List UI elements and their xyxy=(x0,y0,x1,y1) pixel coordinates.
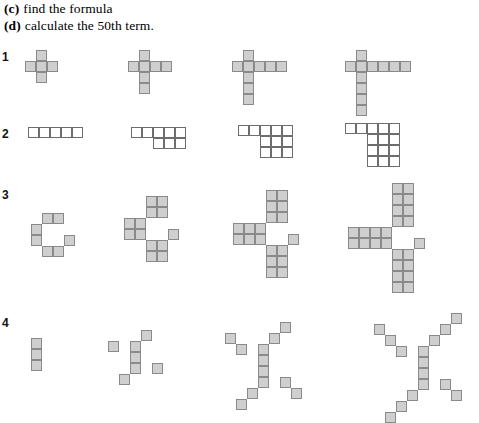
pattern-square xyxy=(389,134,400,145)
pattern-square xyxy=(392,249,403,260)
pattern-square xyxy=(141,330,152,341)
pattern-square xyxy=(42,213,53,224)
pattern-square xyxy=(396,401,407,412)
pattern-square xyxy=(124,218,135,229)
pattern-square xyxy=(243,61,254,72)
pattern-square xyxy=(359,227,370,238)
pattern-square xyxy=(385,412,396,423)
pattern-square xyxy=(389,156,400,167)
pattern-square xyxy=(403,205,414,216)
row-number-label: 2 xyxy=(2,127,9,141)
pattern-square xyxy=(135,229,146,240)
pattern-square xyxy=(440,379,451,390)
pattern-square xyxy=(36,61,47,72)
pattern-square xyxy=(233,234,244,245)
pattern-square xyxy=(243,83,254,94)
pattern-square xyxy=(28,127,39,138)
pattern-square xyxy=(378,61,389,72)
pattern-square xyxy=(36,72,47,83)
pattern-square xyxy=(440,324,451,335)
pattern-square xyxy=(161,61,172,72)
pattern-square xyxy=(247,388,258,399)
pattern-square xyxy=(153,127,164,138)
pattern-square xyxy=(282,125,293,136)
pattern-square xyxy=(414,238,425,249)
pattern-square xyxy=(392,260,403,271)
pattern-square xyxy=(451,313,462,324)
pattern-square xyxy=(429,335,440,346)
pattern-square xyxy=(260,125,271,136)
row-number-label: 1 xyxy=(2,50,9,64)
pattern-square xyxy=(356,105,367,116)
pattern-square xyxy=(255,223,266,234)
pattern-square xyxy=(403,216,414,227)
pattern-square xyxy=(400,61,411,72)
pattern-square xyxy=(276,61,287,72)
pattern-square xyxy=(271,147,282,158)
pattern-square xyxy=(233,223,244,234)
pattern-square xyxy=(255,234,266,245)
pattern-square xyxy=(131,127,142,138)
pattern-square xyxy=(153,138,164,149)
pattern-square xyxy=(258,344,269,355)
pattern-square xyxy=(277,245,288,256)
pattern-square xyxy=(374,324,385,335)
pattern-square xyxy=(254,61,265,72)
pattern-square xyxy=(348,238,359,249)
pattern-square xyxy=(288,234,299,245)
pattern-square xyxy=(265,61,276,72)
pattern-square xyxy=(258,366,269,377)
pattern-square xyxy=(225,333,236,344)
pattern-square xyxy=(146,251,157,262)
pattern-square xyxy=(277,256,288,267)
pattern-square xyxy=(403,271,414,282)
pattern-square xyxy=(345,61,356,72)
pattern-square xyxy=(271,136,282,147)
pattern-square xyxy=(232,61,243,72)
pattern-square xyxy=(392,282,403,293)
pattern-square xyxy=(269,333,280,344)
pattern-square xyxy=(356,83,367,94)
pattern-square xyxy=(146,240,157,251)
pattern-square xyxy=(168,229,179,240)
pattern-square xyxy=(392,194,403,205)
pattern-square xyxy=(175,138,186,149)
pattern-square xyxy=(389,145,400,156)
pattern-square xyxy=(260,136,271,147)
pattern-square xyxy=(345,123,356,134)
pattern-square xyxy=(50,127,61,138)
pattern-square xyxy=(280,322,291,333)
pattern-square xyxy=(266,267,277,278)
pattern-square xyxy=(164,127,175,138)
pattern-square xyxy=(392,271,403,282)
pattern-square xyxy=(31,349,42,360)
pattern-square xyxy=(53,246,64,257)
pattern-square xyxy=(39,127,50,138)
pattern-square xyxy=(266,256,277,267)
pattern-square xyxy=(152,363,163,374)
pattern-square xyxy=(157,196,168,207)
pattern-square xyxy=(128,61,139,72)
pattern-square xyxy=(64,235,75,246)
pattern-square xyxy=(356,50,367,61)
pattern-square xyxy=(277,190,288,201)
pattern-square xyxy=(146,207,157,218)
pattern-square xyxy=(277,201,288,212)
pattern-square xyxy=(53,213,64,224)
pattern-square xyxy=(157,240,168,251)
pattern-square xyxy=(31,235,42,246)
pattern-square xyxy=(249,125,260,136)
pattern-square xyxy=(418,368,429,379)
pattern-square xyxy=(451,390,462,401)
pattern-square xyxy=(243,50,254,61)
pattern-square xyxy=(378,156,389,167)
pattern-square xyxy=(403,282,414,293)
instruction-line-1: (c)find the formula xyxy=(4,0,304,17)
pattern-square xyxy=(356,94,367,105)
pattern-square xyxy=(367,145,378,156)
pattern-square xyxy=(367,123,378,134)
pattern-square xyxy=(389,123,400,134)
pattern-square xyxy=(258,355,269,366)
pattern-square xyxy=(164,138,175,149)
pattern-square xyxy=(266,212,277,223)
